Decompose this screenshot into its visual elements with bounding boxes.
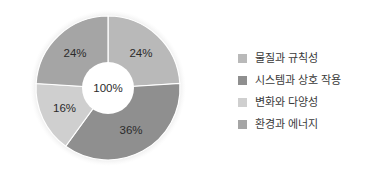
legend-swatch-icon — [238, 98, 247, 107]
legend-item-label: 환경과 에너지 — [255, 119, 318, 130]
pie-chart-figure: 24%36%16%24% 100% 물질과 규칙성 시스템과 상호 작용 변화와… — [0, 0, 367, 177]
legend-swatch-icon — [238, 120, 247, 129]
pie-slice-value-label: 16% — [53, 102, 76, 114]
pie-chart-plot-area: 24%36%16%24% 100% — [0, 0, 220, 177]
pie-chart-svg: 24%36%16%24% 100% — [0, 0, 220, 177]
legend-item[interactable]: 변화와 다양성 — [238, 91, 366, 113]
legend-item[interactable]: 시스템과 상호 작용 — [238, 69, 366, 91]
pie-slice-value-label: 24% — [129, 47, 152, 59]
legend-item-label: 시스템과 상호 작용 — [255, 75, 341, 86]
chart-legend: 물질과 규칙성 시스템과 상호 작용 변화와 다양성 환경과 에너지 — [238, 47, 366, 135]
legend-item-label: 물질과 규칙성 — [255, 53, 318, 64]
legend-swatch-icon — [238, 54, 247, 63]
legend-swatch-icon — [238, 76, 247, 85]
legend-item[interactable]: 환경과 에너지 — [238, 113, 366, 135]
pie-slice-value-label: 36% — [120, 124, 143, 136]
legend-item-label: 변화와 다양성 — [255, 97, 318, 108]
pie-slice-value-label: 24% — [64, 47, 87, 59]
donut-center-label: 100% — [93, 82, 122, 94]
legend-item[interactable]: 물질과 규칙성 — [238, 47, 366, 69]
